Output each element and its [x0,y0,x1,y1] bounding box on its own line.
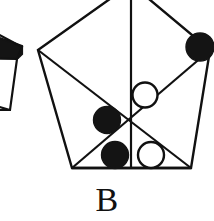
token-white-upper-center [133,83,158,108]
partial-shape-outline [0,14,22,110]
figure-container: B [0,0,214,221]
figure-caption-label: B [0,180,214,220]
partial-shape-inner-line-2 [0,96,10,110]
token-white-bottom-center [138,142,164,168]
pentagon-outline [38,0,210,168]
token-black-top-right [186,33,214,61]
token-black-middle-left [94,107,121,134]
partial-pentagon-left-edge [0,14,22,110]
token-black-bottom-left [102,142,129,169]
partial-shape-inner-line [0,58,17,59]
